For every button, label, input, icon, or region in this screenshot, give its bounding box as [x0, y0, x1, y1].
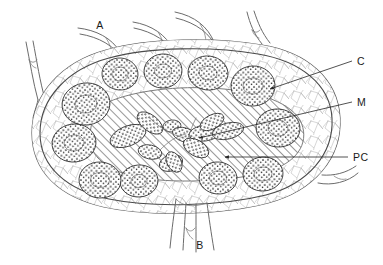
- label-c: C: [357, 55, 365, 67]
- label-a: A: [96, 19, 103, 31]
- lymph-node-figure: A B C M PC: [0, 0, 383, 265]
- lymph-node-diagram: A B C M PC: [0, 0, 383, 265]
- label-m: M: [357, 96, 366, 108]
- lymph-node-body: [28, 34, 348, 222]
- efferent-valve: [186, 228, 195, 231]
- label-pc: PC: [353, 151, 368, 163]
- afferent-vessel-4: [247, 11, 270, 44]
- label-b: B: [196, 239, 203, 251]
